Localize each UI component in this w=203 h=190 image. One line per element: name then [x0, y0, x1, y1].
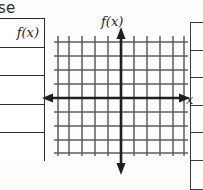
coordinate-grid-svg — [40, 16, 190, 176]
table-header-label-fx: f(x) — [17, 25, 39, 40]
table-row[interactable] — [0, 76, 44, 104]
arrow-down-icon — [117, 163, 126, 175]
table-row[interactable] — [0, 48, 44, 76]
table-row[interactable] — [191, 106, 203, 134]
x-axis — [42, 94, 190, 103]
table-row[interactable] — [191, 51, 203, 79]
table-row[interactable] — [191, 133, 203, 161]
table-row[interactable] — [0, 105, 44, 133]
y-axis-label: f(x) — [101, 14, 123, 29]
table-row[interactable] — [191, 161, 203, 189]
table-row[interactable] — [191, 23, 203, 51]
x-axis-label: x — [186, 92, 193, 107]
coordinate-graph — [40, 16, 190, 176]
table-header-row: f(x) — [0, 19, 44, 48]
heading-text-fragment: se — [0, 0, 15, 17]
arrow-left-icon — [42, 94, 53, 103]
table-row[interactable] — [0, 133, 44, 161]
worksheet-page: se f(x) — [0, 0, 203, 190]
function-value-table[interactable]: f(x) — [0, 18, 45, 161]
